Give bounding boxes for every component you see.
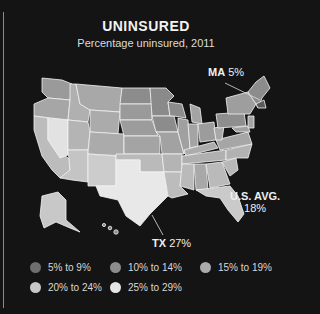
ma-value: 5% xyxy=(228,66,244,78)
state-ak xyxy=(40,192,80,232)
state-ks xyxy=(124,136,160,154)
ma-annotation: MA 5% xyxy=(208,66,244,78)
state-wi xyxy=(168,102,186,118)
tx-leader-line xyxy=(152,215,163,235)
legend-swatch xyxy=(110,262,121,273)
legend-swatch xyxy=(110,282,121,293)
state-wa xyxy=(42,78,72,100)
legend-item-10-14: 10% to 14% xyxy=(110,262,182,273)
state-ia xyxy=(152,116,178,132)
legend-item-15-19: 15% to 19% xyxy=(200,262,272,273)
state-al xyxy=(194,164,208,190)
state-ne xyxy=(120,120,158,136)
state-wy xyxy=(90,110,120,134)
state-hi xyxy=(102,223,105,226)
state-oh xyxy=(198,122,216,142)
state-sd xyxy=(120,104,152,120)
state-co xyxy=(88,132,124,156)
state-in xyxy=(188,124,198,148)
state-ut xyxy=(68,120,90,150)
tx-state-label: TX xyxy=(152,237,166,249)
tx-annotation: TX 27% xyxy=(152,237,191,249)
state-nj xyxy=(248,116,254,128)
legend-swatch xyxy=(200,262,211,273)
state-nm xyxy=(88,154,116,186)
us-avg-annotation: U.S. AVG. 18% xyxy=(230,190,280,214)
tx-value: 27% xyxy=(169,237,191,249)
state-ar xyxy=(162,154,182,172)
ma-state-label: MA xyxy=(208,66,225,78)
legend-item-25-29: 25% to 29% xyxy=(110,282,182,293)
state-nd xyxy=(120,88,152,104)
us-avg-label: U.S. AVG. xyxy=(230,190,280,202)
us-avg-value: 18% xyxy=(230,202,280,214)
legend-swatch xyxy=(30,262,41,273)
state-ms xyxy=(180,164,194,190)
state-pa xyxy=(216,112,246,128)
state-mi xyxy=(190,104,202,124)
legend-item-5-9: 5% to 9% xyxy=(30,262,91,273)
legend-item-20-24: 20% to 24% xyxy=(30,282,102,293)
legend-swatch xyxy=(30,282,41,293)
